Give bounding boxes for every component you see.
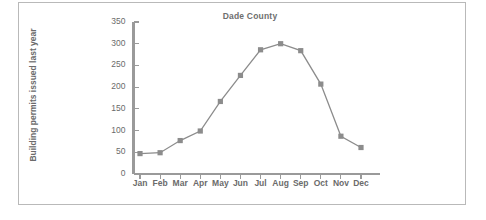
- chart-area: Dade County Building permits issued last…: [0, 0, 486, 220]
- series-polyline: [140, 44, 361, 154]
- data-point-marker-dec: [358, 145, 363, 150]
- data-series-line: [140, 44, 361, 154]
- plot-svg: [0, 0, 486, 220]
- data-point-marker-may: [218, 99, 223, 104]
- data-point-marker-aug: [278, 41, 283, 46]
- data-point-marker-apr: [198, 128, 203, 133]
- data-point-marker-mar: [178, 138, 183, 143]
- axes-group: [134, 22, 381, 179]
- data-point-markers: [137, 41, 363, 156]
- data-point-marker-sep: [298, 48, 303, 53]
- data-point-marker-feb: [157, 150, 162, 155]
- data-point-marker-jul: [258, 47, 263, 52]
- data-point-marker-jan: [137, 151, 142, 156]
- data-point-marker-oct: [318, 82, 323, 87]
- data-point-marker-jun: [238, 73, 243, 78]
- data-point-marker-nov: [338, 134, 343, 139]
